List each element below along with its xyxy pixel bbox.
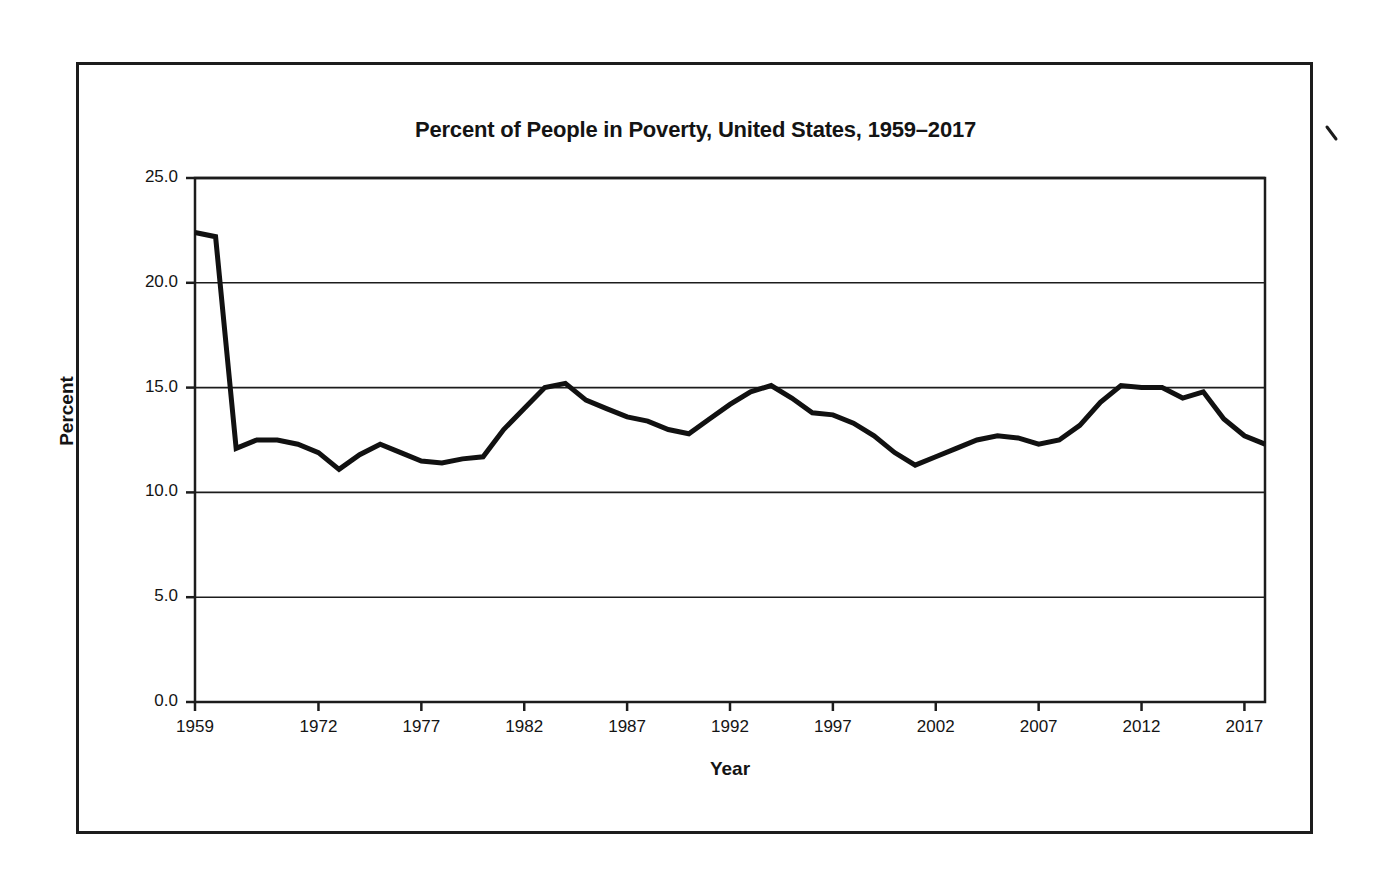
y-tick-label: 25.0 [108, 167, 178, 187]
x-tick-label: 1992 [685, 717, 775, 737]
x-tick-label: 1997 [788, 717, 878, 737]
x-tick-label: 2007 [994, 717, 1084, 737]
x-tick-label: 2002 [891, 717, 981, 737]
x-tick-label: 1972 [273, 717, 363, 737]
y-tick-label: 10.0 [108, 481, 178, 501]
x-tick-label: 2017 [1199, 717, 1289, 737]
x-tick-label: 1987 [582, 717, 672, 737]
x-tick-label: 1982 [479, 717, 569, 737]
data-series-line [195, 233, 1265, 470]
y-axis-ticks [186, 178, 195, 702]
y-tick-label: 0.0 [108, 691, 178, 711]
x-tick-label: 2012 [1097, 717, 1187, 737]
plot-canvas [0, 0, 1391, 896]
plot-frame [195, 178, 1265, 702]
y-tick-label: 5.0 [108, 586, 178, 606]
poverty-chart-page: Percent of People in Poverty, United Sta… [0, 0, 1391, 896]
x-tick-label: 1959 [150, 717, 240, 737]
x-tick-label: 1977 [376, 717, 466, 737]
gridlines [195, 178, 1265, 597]
y-tick-label: 15.0 [108, 377, 178, 397]
chart-figure: Percent of People in Poverty, United Sta… [0, 0, 1391, 896]
y-tick-label: 20.0 [108, 272, 178, 292]
x-axis-ticks [195, 702, 1244, 711]
